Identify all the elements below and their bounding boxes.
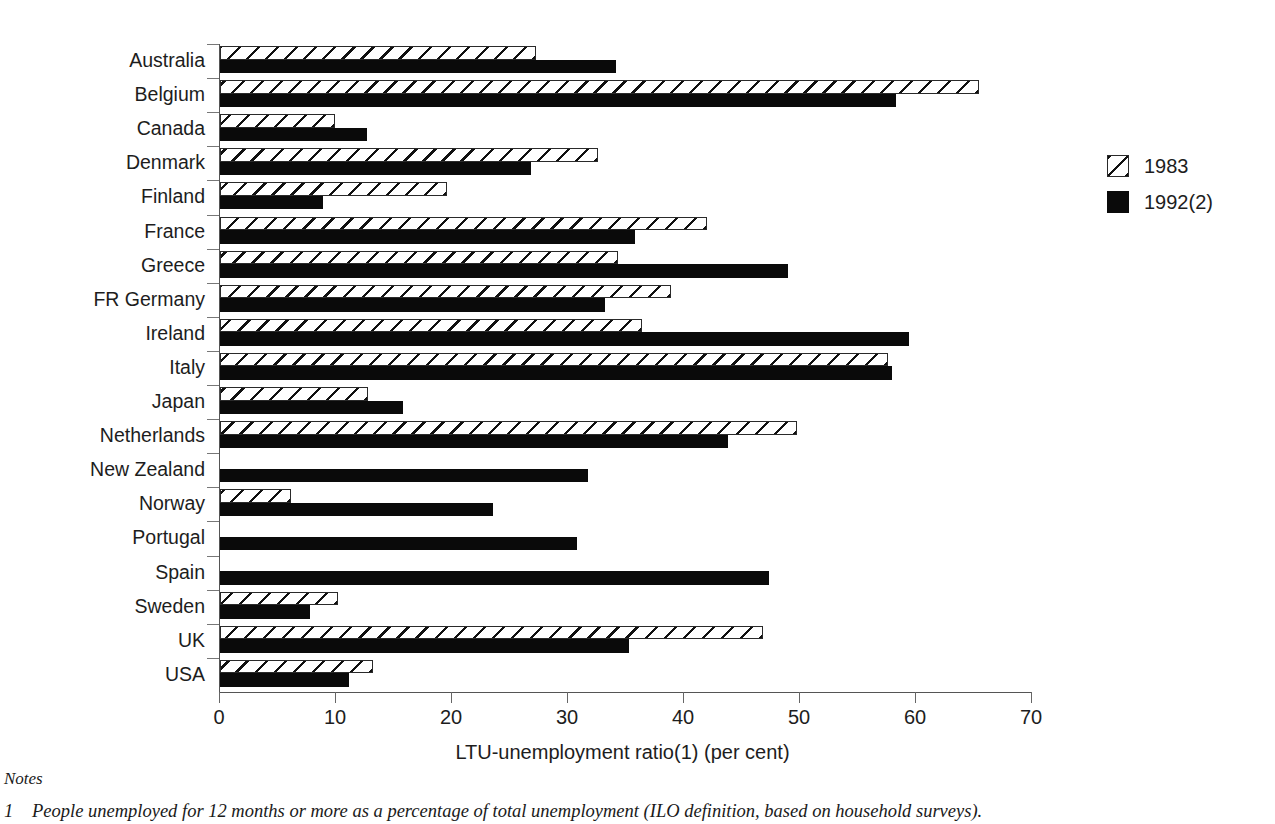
category-tick <box>207 180 219 181</box>
category-tick <box>207 112 219 113</box>
bar-1992-spain <box>220 571 769 585</box>
bar-1983-japan <box>220 387 368 401</box>
category-label-spain: Spain <box>0 561 205 584</box>
x-tick-0 <box>219 692 220 703</box>
bar-1992-portugal <box>220 537 577 551</box>
category-tick <box>207 351 219 352</box>
category-tick <box>207 453 219 454</box>
x-tick-label-0: 0 <box>213 706 224 729</box>
bar-row: Spain <box>0 556 1275 590</box>
x-tick-10 <box>335 692 336 703</box>
bar-1992-france <box>220 230 635 244</box>
category-label-norway: Norway <box>0 492 205 515</box>
x-tick-40 <box>683 692 684 703</box>
legend-item-1992: 1992(2) <box>1107 184 1267 220</box>
chart-canvas: AustraliaBelgiumCanadaDenmarkFinlandFran… <box>0 0 1275 824</box>
bar-1992-new-zealand <box>220 469 588 483</box>
bar-1992-canada <box>220 128 367 142</box>
x-tick-label-60: 60 <box>904 706 926 729</box>
bar-1983-australia <box>220 46 536 60</box>
category-tick <box>207 521 219 522</box>
bar-row: UK <box>0 624 1275 658</box>
category-tick <box>207 487 219 488</box>
legend-label-1983: 1983 <box>1144 155 1189 178</box>
bar-row: France <box>0 215 1275 249</box>
legend-item-1983: 1983 <box>1107 148 1267 184</box>
category-tick <box>207 624 219 625</box>
legend-label-1992: 1992(2) <box>1144 191 1213 214</box>
bar-1992-belgium <box>220 94 896 108</box>
x-axis-title-text: LTU-unemployment ratio(1) (per cent) <box>455 741 789 764</box>
bar-1992-finland <box>220 196 323 210</box>
bar-row: Belgium <box>0 78 1275 112</box>
bar-1983-netherlands <box>220 421 797 435</box>
bar-row: Greece <box>0 249 1275 283</box>
bar-1983-italy <box>220 353 888 367</box>
notes-heading: Notes <box>4 769 1269 789</box>
bar-1983-finland <box>220 182 447 196</box>
category-label-greece: Greece <box>0 254 205 277</box>
note-text: People unemployed for 12 months or more … <box>32 801 982 822</box>
bar-1983-sweden <box>220 592 338 606</box>
bar-1983-fr-germany <box>220 285 671 299</box>
bar-row: Australia <box>0 44 1275 78</box>
x-tick-30 <box>567 692 568 703</box>
category-label-usa: USA <box>0 663 205 686</box>
legend-swatch-hatched-icon <box>1107 155 1129 177</box>
bar-row: Japan <box>0 385 1275 419</box>
category-label-fr-germany: FR Germany <box>0 288 205 311</box>
bar-row: Italy <box>0 351 1275 385</box>
bar-1992-greece <box>220 264 788 278</box>
bar-1992-denmark <box>220 162 531 176</box>
bar-1992-fr-germany <box>220 298 605 312</box>
category-tick <box>207 419 219 420</box>
category-label-sweden: Sweden <box>0 595 205 618</box>
note-number: 1 <box>4 801 32 822</box>
bar-row: Finland <box>0 180 1275 214</box>
note-item: 1 People unemployed for 12 months or mor… <box>4 801 1269 822</box>
bar-row: Ireland <box>0 317 1275 351</box>
x-tick-label-70: 70 <box>1020 706 1042 729</box>
bar-1992-sweden <box>220 605 310 619</box>
bar-1983-usa <box>220 660 373 674</box>
category-tick <box>207 249 219 250</box>
bar-1992-netherlands <box>220 435 728 449</box>
bar-row: Netherlands <box>0 419 1275 453</box>
category-label-portugal: Portugal <box>0 526 205 549</box>
bar-1983-france <box>220 217 707 231</box>
bar-row: Denmark <box>0 146 1275 180</box>
bar-row: FR Germany <box>0 283 1275 317</box>
bar-1983-ireland <box>220 319 642 333</box>
bar-1992-australia <box>220 60 616 74</box>
x-tick-60 <box>915 692 916 703</box>
bar-1983-uk <box>220 626 763 640</box>
x-tick-label-30: 30 <box>556 706 578 729</box>
x-tick-label-20: 20 <box>440 706 462 729</box>
category-label-denmark: Denmark <box>0 151 205 174</box>
legend: 1983 1992(2) <box>1107 148 1267 220</box>
category-tick <box>207 215 219 216</box>
notes-block: Notes 1 People unemployed for 12 months … <box>4 769 1269 822</box>
category-label-new-zealand: New Zealand <box>0 458 205 481</box>
bar-1992-japan <box>220 401 403 415</box>
category-label-canada: Canada <box>0 117 205 140</box>
category-tick <box>207 385 219 386</box>
category-label-uk: UK <box>0 629 205 652</box>
bar-row: USA <box>0 658 1275 692</box>
category-label-france: France <box>0 220 205 243</box>
bar-row: Portugal <box>0 521 1275 555</box>
value-axis-line <box>219 692 1031 693</box>
x-axis-title: LTU-unemployment ratio(1) (per cent) <box>0 741 1275 764</box>
category-tick <box>207 556 219 557</box>
bar-1983-norway <box>220 489 291 503</box>
bar-1983-denmark <box>220 148 598 162</box>
x-tick-50 <box>799 692 800 703</box>
category-tick <box>207 658 219 659</box>
category-label-netherlands: Netherlands <box>0 424 205 447</box>
category-label-italy: Italy <box>0 356 205 379</box>
bar-1983-greece <box>220 251 618 265</box>
category-tick <box>207 44 219 45</box>
category-label-finland: Finland <box>0 185 205 208</box>
bar-1992-ireland <box>220 332 909 346</box>
bar-row: Norway <box>0 487 1275 521</box>
